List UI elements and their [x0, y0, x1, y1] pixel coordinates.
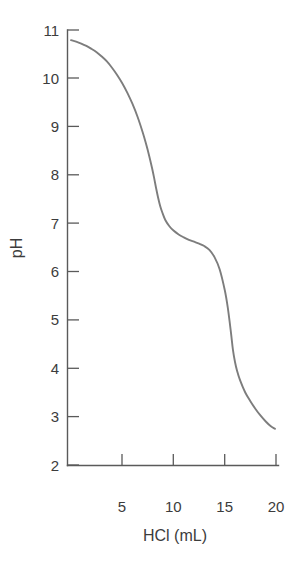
- chart-svg: 11 10 9 8 7 6 5 4 3 2 5 10 15 20 HCl (mL…: [0, 0, 300, 570]
- x-axis-tick-labels: 5 10 15 20: [118, 498, 285, 515]
- y-tick-label-2: 2: [51, 457, 59, 474]
- x-axis-title: HCl (mL): [143, 527, 207, 544]
- y-tick-label-3: 3: [51, 408, 59, 425]
- x-tick-label-15: 15: [216, 498, 233, 515]
- y-axis-ticks: [68, 30, 80, 465]
- titration-chart-figure: 11 10 9 8 7 6 5 4 3 2 5 10 15 20 HCl (mL…: [0, 0, 300, 570]
- titration-curve: [71, 40, 275, 429]
- y-axis-tick-labels: 11 10 9 8 7 6 5 4 3 2: [42, 22, 59, 474]
- y-tick-label-7: 7: [51, 215, 59, 232]
- y-tick-label-4: 4: [51, 360, 59, 377]
- y-tick-label-6: 6: [51, 263, 59, 280]
- x-tick-label-20: 20: [268, 498, 285, 515]
- y-tick-label-10: 10: [42, 70, 59, 87]
- y-axis-title: pH: [8, 238, 25, 258]
- y-tick-label-8: 8: [51, 166, 59, 183]
- x-tick-label-10: 10: [165, 498, 182, 515]
- x-axis-ticks: [122, 454, 276, 466]
- y-tick-label-5: 5: [51, 311, 59, 328]
- axis-lines: [68, 30, 279, 466]
- x-tick-label-5: 5: [118, 498, 126, 515]
- y-tick-label-9: 9: [51, 118, 59, 135]
- y-tick-label-11: 11: [43, 22, 59, 39]
